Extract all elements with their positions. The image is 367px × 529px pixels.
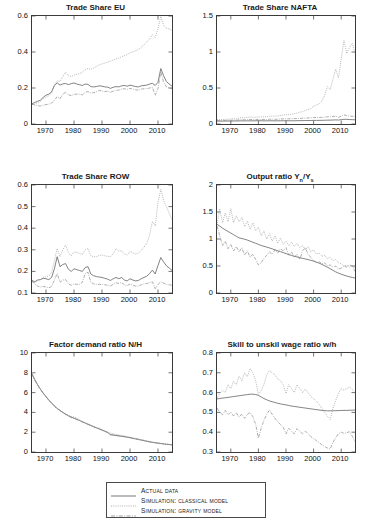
legend-line-sample-solid <box>110 486 137 494</box>
y-axis-tick-label: 0.2 <box>0 266 28 275</box>
x-axis-tick-label: 1990 <box>277 454 294 463</box>
y-axis-tick-label: 10 <box>0 348 28 357</box>
x-axis-tick-label: 1970 <box>221 454 238 463</box>
x-axis-tick-label: 2010 <box>332 454 349 463</box>
legend-item-actual-data: Actual Data <box>110 485 261 495</box>
x-axis-tick-label: 2000 <box>304 454 321 463</box>
panel-trade-share-row: Trade Share ROW 0.10.20.30.40.50.6197019… <box>0 170 183 335</box>
legend-line-sample-dotted <box>110 496 137 504</box>
y-axis-tick-label: 0.5 <box>0 201 28 210</box>
y-axis-tick-label: 1 <box>183 47 213 56</box>
y-axis-tick-label: 0 <box>183 288 213 297</box>
x-axis-tick-label: 2010 <box>149 454 166 463</box>
x-axis-tick-label: 2010 <box>149 126 166 135</box>
x-axis-tick-label: 1990 <box>277 126 294 135</box>
panel-title-trade-share-nafta: Trade Share NAFTA <box>203 3 357 12</box>
panel-factor-demand-ratio: Factor demand ratio N/H 0246810197019801… <box>0 338 183 473</box>
plot-area-skill-wage-ratio <box>216 352 356 453</box>
y-axis-tick-label: 0 <box>0 447 28 456</box>
plot-area-trade-share-eu <box>31 15 173 125</box>
y-axis-tick-label: 1 <box>183 234 213 243</box>
output-ratio-subscript-s: s <box>311 177 314 183</box>
legend-item-classical-model: Simulation: Classical model <box>110 495 261 505</box>
y-axis-tick-label: 0.8 <box>183 348 213 357</box>
multi-panel-figure: Trade Share EU 00.20.40.6197019801990200… <box>0 0 367 529</box>
x-axis-tick-label: 1970 <box>37 454 54 463</box>
x-axis-tick-label: 2010 <box>149 295 166 304</box>
figure-legend: Actual Data Simulation: Classical model … <box>106 482 266 518</box>
y-axis-tick-label: 0.6 <box>0 180 28 189</box>
legend-line-sample-dashdot <box>110 506 137 514</box>
y-axis-tick-label: 0.4 <box>183 427 213 436</box>
y-axis-tick-label: 0.3 <box>183 447 213 456</box>
y-axis-tick-label: 0 <box>183 119 213 128</box>
x-axis-tick-label: 1990 <box>93 454 110 463</box>
panel-trade-share-eu: Trade Share EU 00.20.40.6197019801990200… <box>0 0 183 160</box>
x-axis-tick-label: 1990 <box>277 295 294 304</box>
x-axis-tick-label: 1970 <box>221 126 238 135</box>
x-axis-tick-label: 2000 <box>121 454 138 463</box>
plot-area-trade-share-nafta <box>216 15 356 125</box>
x-axis-tick-label: 1980 <box>249 295 266 304</box>
output-ratio-title-slash: /Y <box>303 172 311 181</box>
panel-title-skill-wage-ratio: Skill to unskil wage ratio w/h <box>203 340 361 349</box>
x-axis-tick-label: 1980 <box>65 126 82 135</box>
legend-label-classical-model: Simulation: Classical model <box>141 497 228 504</box>
y-axis-tick-label: 0.4 <box>0 47 28 56</box>
panel-title-output-ratio: Output ratio Yn/Ys <box>203 172 357 183</box>
panel-skill-wage-ratio: Skill to unskil wage ratio w/h 0.30.40.5… <box>183 338 367 473</box>
y-axis-tick-label: 0.5 <box>183 83 213 92</box>
panel-output-ratio: Output ratio Yn/Ys 00.511.52197019801990… <box>183 170 367 335</box>
x-axis-tick-label: 1970 <box>221 295 238 304</box>
x-axis-tick-label: 1980 <box>249 126 266 135</box>
x-axis-tick-label: 1980 <box>65 295 82 304</box>
plot-area-factor-demand-ratio <box>31 352 173 453</box>
y-axis-tick-label: 0.2 <box>0 83 28 92</box>
x-axis-tick-label: 2000 <box>121 126 138 135</box>
y-axis-tick-label: 4 <box>0 407 28 416</box>
panel-title-trade-share-eu: Trade Share EU <box>18 3 173 12</box>
y-axis-tick-label: 0.1 <box>0 288 28 297</box>
x-axis-tick-label: 2000 <box>304 126 321 135</box>
x-axis-tick-label: 1990 <box>93 295 110 304</box>
y-axis-tick-label: 0.5 <box>183 261 213 270</box>
y-axis-tick-label: 0.3 <box>0 244 28 253</box>
y-axis-tick-label: 1.5 <box>183 11 213 20</box>
y-axis-tick-label: 0 <box>0 119 28 128</box>
y-axis-tick-label: 1.5 <box>183 207 213 216</box>
panel-title-trade-share-row: Trade Share ROW <box>18 172 173 181</box>
plot-area-trade-share-row <box>31 184 173 294</box>
y-axis-tick-label: 0.4 <box>0 223 28 232</box>
y-axis-tick-label: 6 <box>0 387 28 396</box>
x-axis-tick-label: 1980 <box>249 454 266 463</box>
y-axis-tick-label: 0.6 <box>0 11 28 20</box>
x-axis-tick-label: 2010 <box>332 126 349 135</box>
y-axis-tick-label: 8 <box>0 367 28 376</box>
x-axis-tick-label: 1980 <box>65 454 82 463</box>
x-axis-tick-label: 2000 <box>304 295 321 304</box>
x-axis-tick-label: 1970 <box>37 126 54 135</box>
legend-label-gravity-model: Simulation: Gravity model <box>141 507 222 514</box>
x-axis-tick-label: 2010 <box>332 295 349 304</box>
y-axis-tick-label: 2 <box>183 180 213 189</box>
y-axis-tick-label: 0.5 <box>183 407 213 416</box>
y-axis-tick-label: 0.6 <box>183 387 213 396</box>
legend-label-actual-data: Actual Data <box>141 487 178 494</box>
panel-title-factor-demand-ratio: Factor demand ratio N/H <box>18 340 173 349</box>
y-axis-tick-label: 2 <box>0 427 28 436</box>
x-axis-tick-label: 2000 <box>121 295 138 304</box>
panel-trade-share-nafta: Trade Share NAFTA 00.511.519701980199020… <box>183 0 367 160</box>
output-ratio-title-text: Output ratio Y <box>246 172 299 181</box>
legend-item-gravity-model: Simulation: Gravity model <box>110 505 261 515</box>
x-axis-tick-label: 1990 <box>93 126 110 135</box>
plot-area-output-ratio <box>216 184 356 294</box>
y-axis-tick-label: 0.7 <box>183 367 213 376</box>
x-axis-tick-label: 1970 <box>37 295 54 304</box>
